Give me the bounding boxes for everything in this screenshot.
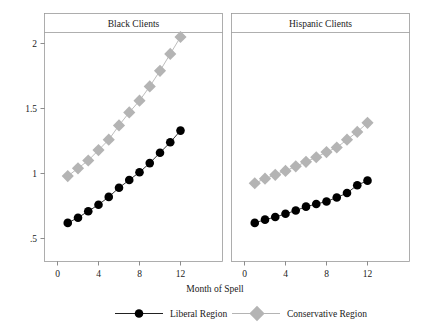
data-point-circle [291, 206, 300, 215]
data-point-circle [84, 207, 93, 216]
data-point-diamond [320, 146, 332, 158]
data-point-circle [145, 159, 154, 168]
legend-label-liberal: Liberal Region [170, 309, 227, 319]
data-point-circle [363, 176, 372, 185]
data-point-circle [74, 213, 83, 222]
data-point-circle [343, 189, 352, 198]
x-tick-label-0: 0 [55, 269, 60, 279]
data-point-circle [322, 197, 331, 206]
x-tick-label-8: 8 [137, 269, 142, 279]
data-point-circle [302, 202, 311, 211]
panel-hispanic-clients: Hispanic Clients 0 4 8 12 [232, 14, 410, 280]
data-point-diamond [341, 134, 353, 146]
data-point-circle [353, 181, 362, 190]
data-point-circle [176, 126, 185, 135]
x-axis-left: 0 4 8 12 [55, 262, 185, 280]
x-axis-right: 0 4 8 12 [242, 262, 372, 280]
legend-entry-liberal[interactable]: Liberal Region [115, 309, 227, 319]
y-tick-label-1: 1 [32, 169, 37, 179]
legend-marker-circle-icon [135, 309, 144, 318]
legend-entry-conservative[interactable]: Conservative Region [232, 306, 367, 321]
data-point-circle [271, 213, 280, 222]
data-point-diamond [144, 80, 156, 92]
legend-label-conservative: Conservative Region [287, 309, 367, 319]
panel-title-hispanic-clients: Hispanic Clients [289, 19, 352, 29]
data-point-circle [104, 193, 113, 202]
series-line [68, 37, 181, 176]
data-point-circle [63, 219, 72, 228]
data-point-circle [156, 148, 165, 157]
data-point-circle [125, 176, 134, 185]
panel-black-clients: Black Clients 2 1.5 1 .5 0 4 8 [25, 14, 222, 280]
data-point-diamond [154, 65, 166, 77]
data-point-diamond [300, 156, 312, 168]
data-point-circle [261, 215, 270, 224]
data-point-circle [332, 193, 341, 202]
panel-title-black-clients: Black Clients [108, 19, 160, 29]
x-tick-label-12: 12 [176, 269, 186, 279]
data-point-diamond [249, 177, 261, 189]
series-conservative-black [62, 31, 187, 182]
chart-figure: Black Clients 2 1.5 1 .5 0 4 8 [0, 0, 431, 333]
legend-marker-diamond-icon [249, 306, 264, 321]
data-point-diamond [290, 160, 302, 172]
chart-legend: Liberal Region Conservative Region [115, 306, 367, 321]
series-liberal-hispanic [250, 176, 371, 227]
data-point-diamond [62, 170, 74, 182]
data-point-diamond [164, 48, 176, 60]
data-point-diamond [310, 151, 322, 163]
data-point-diamond [331, 141, 343, 153]
data-point-diamond [259, 173, 271, 185]
data-point-circle [94, 200, 103, 209]
x-axis-title: Month of Spell [186, 284, 244, 294]
y-tick-label-2: 2 [32, 39, 37, 49]
data-point-diamond [269, 169, 281, 181]
x-tick-label-4: 4 [96, 269, 101, 279]
data-point-circle [281, 210, 290, 219]
data-point-circle [250, 219, 259, 228]
data-point-diamond [279, 165, 291, 177]
y-tick-label-05: .5 [30, 234, 37, 244]
data-point-circle [166, 138, 175, 147]
data-point-circle [312, 200, 321, 209]
series-conservative-hispanic [249, 117, 374, 190]
series-liberal-black [63, 126, 184, 227]
data-point-diamond [72, 162, 84, 174]
x-tick-label-0-right: 0 [242, 269, 247, 279]
chart-svg: Black Clients 2 1.5 1 .5 0 4 8 [0, 0, 431, 333]
x-tick-label-12-right: 12 [363, 269, 373, 279]
data-point-circle [115, 184, 124, 193]
x-tick-label-4-right: 4 [283, 269, 288, 279]
data-point-circle [135, 168, 144, 177]
data-point-diamond [113, 119, 125, 131]
x-tick-label-8-right: 8 [324, 269, 329, 279]
y-axis-left: 2 1.5 1 .5 [25, 39, 44, 244]
y-tick-label-1-5: 1.5 [25, 104, 37, 114]
